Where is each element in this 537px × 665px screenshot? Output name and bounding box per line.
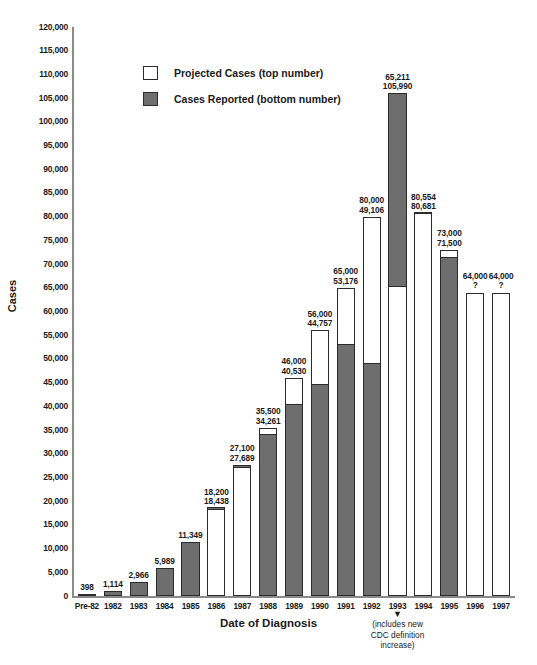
x-tick-label: 1991 [337, 601, 355, 611]
bar-reported [207, 507, 225, 510]
x-tick-label: Pre-82 [75, 601, 99, 611]
x-tick-label: 1983 [130, 601, 148, 611]
y-tick-label: 30,000 [10, 449, 68, 458]
bar-value-labels: 11,349 [178, 531, 202, 541]
x-tick-label: 1995 [440, 601, 458, 611]
bar-label-reported: 27,689 [230, 454, 255, 464]
y-tick-label: 90,000 [10, 165, 68, 174]
bar-group[interactable]: 56,00044,757 [311, 27, 329, 596]
y-tick-label: 50,000 [10, 354, 68, 363]
y-tick-label: 120,000 [10, 23, 68, 32]
bar-label-reported: 44,757 [307, 319, 332, 329]
y-tick-label: 75,000 [10, 236, 68, 245]
y-tick-label: 80,000 [10, 212, 68, 221]
bar-reported [440, 257, 458, 596]
bar-group[interactable]: 65,211105,990 [388, 27, 406, 596]
bar-value-labels: 46,00040,530 [282, 357, 307, 376]
bar-value-labels: 65,211105,990 [383, 73, 412, 92]
annotation-arrow-icon: ▼ [343, 611, 453, 618]
bar-group[interactable]: 73,00071,500 [440, 27, 458, 596]
y-tick-label: 35,000 [10, 426, 68, 435]
bar-value-labels: 1,114 [103, 580, 123, 590]
bar-reported [259, 434, 277, 596]
annotation-line: (includes new [372, 619, 423, 629]
bar-label-reported: 18,438 [204, 497, 229, 507]
bar-group[interactable]: 18,20018,438 [207, 27, 225, 596]
y-tick-label: 105,000 [10, 94, 68, 103]
bar-group[interactable]: 64,000? [466, 27, 484, 596]
bar-group[interactable]: 5,989 [156, 27, 174, 596]
bar-projected [207, 509, 225, 596]
bar-group[interactable]: 46,00040,530 [285, 27, 303, 596]
bar-value-labels: 35,50034,261 [256, 407, 281, 426]
bar-group[interactable]: 27,10027,689 [233, 27, 251, 596]
aids-cases-bar-chart: 120,000115,000110,000105,000100,00095,00… [0, 0, 537, 665]
bar-reported [181, 542, 199, 596]
y-tick-label: 40,000 [10, 402, 68, 411]
bar-value-labels: 27,10027,689 [230, 444, 255, 463]
bar-value-labels: 398 [80, 583, 94, 593]
bar-projected [233, 465, 251, 596]
bar-value-labels: 56,00044,757 [307, 310, 332, 329]
y-tick-label: 5,000 [10, 568, 68, 577]
bar-projected [414, 213, 432, 596]
y-tick-label: 20,000 [10, 497, 68, 506]
bar-reported [156, 568, 174, 596]
annotation-line: CDC definition [371, 630, 425, 640]
bar-label-reported: 34,261 [256, 417, 281, 427]
y-tick-label: 115,000 [10, 46, 68, 55]
x-axis-line [72, 596, 515, 598]
bar-label-reported: 71,500 [437, 239, 462, 249]
x-tick-label: 1988 [259, 601, 277, 611]
bar-value-labels: 80,55480,681 [411, 193, 436, 212]
bar-group[interactable]: 80,55480,681 [414, 27, 432, 596]
bar-reported [337, 344, 355, 596]
bar-value-labels: 80,00049,106 [359, 196, 384, 215]
bar-reported [388, 93, 406, 286]
y-tick-label: 60,000 [10, 307, 68, 316]
bar-reported [311, 384, 329, 596]
y-tick-label: 45,000 [10, 378, 68, 387]
bar-value-labels: 73,00071,500 [437, 229, 462, 248]
bar-label-reported: 2,966 [129, 571, 149, 581]
bar-label-reported: 53,176 [333, 277, 358, 287]
y-tick-label: 15,000 [10, 520, 68, 529]
cdc-definition-note: ▼(includes newCDC definitionincrease) [343, 611, 453, 651]
y-tick-label: 85,000 [10, 188, 68, 197]
bar-label-reported: 398 [80, 583, 94, 593]
x-axis-title: Date of Diagnosis [0, 617, 537, 629]
x-tick-label: 1994 [415, 601, 433, 611]
y-tick-label: 95,000 [10, 141, 68, 150]
y-tick-label: 110,000 [10, 70, 68, 79]
x-tick-label: 1986 [208, 601, 226, 611]
bar-group[interactable]: 2,966 [130, 27, 148, 596]
bar-group[interactable]: 1,114 [104, 27, 122, 596]
x-tick-label: 1997 [492, 601, 510, 611]
bar-projected [466, 293, 484, 596]
bar-reported [363, 363, 381, 596]
bar-group[interactable]: 64,000? [492, 27, 510, 596]
bar-label-reported: 40,530 [282, 367, 307, 377]
bar-group[interactable]: 11,349 [181, 27, 199, 596]
bar-reported [130, 582, 148, 596]
plot-area: 3981,1142,9665,98911,34918,20018,43827,1… [74, 27, 514, 596]
bar-value-labels: 65,00053,176 [333, 267, 358, 286]
bar-label-reported: ? [489, 281, 514, 291]
x-tick-label: 1990 [311, 601, 329, 611]
y-tick-label: 25,000 [10, 473, 68, 482]
bar-reported [233, 465, 251, 468]
bar-group[interactable]: 65,00053,176 [337, 27, 355, 596]
y-tick-label: 10,000 [10, 544, 68, 553]
bar-label-reported: ? [463, 281, 488, 291]
y-tick-label: 55,000 [10, 331, 68, 340]
x-tick-label: 1987 [233, 601, 251, 611]
bar-group[interactable]: 80,00049,106 [363, 27, 381, 596]
bar-projected [492, 293, 510, 596]
bar-group[interactable]: 35,50034,261 [259, 27, 277, 596]
bar-label-reported: 5,989 [154, 557, 174, 567]
bar-group[interactable]: 398 [78, 27, 96, 596]
bar-value-labels: 18,20018,438 [204, 488, 229, 507]
annotation-line: increase) [380, 640, 414, 650]
bar-value-labels: 5,989 [154, 557, 174, 567]
bar-reported [285, 404, 303, 596]
